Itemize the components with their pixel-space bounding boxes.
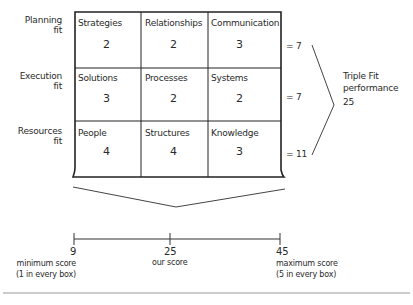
cell-value: 2 — [170, 92, 177, 105]
cell-value: 2 — [236, 92, 243, 105]
cell-value: 3 — [236, 145, 243, 158]
cell-value: 3 — [103, 92, 110, 105]
cell-value: 4 — [170, 145, 177, 158]
scale-value-min: 9 — [70, 246, 76, 257]
scale-caption-max: maximum score (5 in every box) — [276, 258, 338, 280]
cell-value: 2 — [103, 38, 110, 51]
scale-caption-min: minimum score (1 in every box) — [12, 258, 76, 280]
scale-value-ours: 25 — [164, 246, 176, 257]
scale-value-max: 45 — [276, 246, 288, 257]
triple-fit-summary: Triple Fit performance 25 — [343, 70, 398, 108]
row-label-line1: Planning — [2, 15, 62, 25]
cell-title: Knowledge — [211, 128, 259, 138]
row-label-line2: fit — [2, 81, 62, 91]
cell-title: Strategies — [78, 18, 122, 28]
row-label-resources: Resources fit — [2, 126, 62, 146]
caption-line1: minimum score — [12, 258, 76, 269]
right-bracket — [312, 45, 334, 155]
caption-line2: (5 in every box) — [276, 269, 338, 280]
row-label-line1: Execution — [2, 71, 62, 81]
caption-line1: maximum score — [276, 258, 338, 269]
cell-title: Systems — [211, 73, 248, 83]
row-total-planning: = 7 — [286, 41, 302, 51]
scale-caption-ours: our score — [152, 258, 188, 267]
cell-title: Solutions — [78, 73, 118, 83]
row-total-resources: = 11 — [286, 149, 307, 159]
row-total-execution: = 7 — [286, 92, 302, 102]
summary-value: 25 — [343, 96, 398, 108]
cell-value: 2 — [170, 38, 177, 51]
cell-title: Processes — [145, 73, 188, 83]
cell-title: Structures — [145, 128, 190, 138]
cell-title: Communication — [211, 18, 279, 28]
summary-line1: Triple Fit — [343, 70, 398, 82]
bottom-bracket — [73, 187, 285, 207]
row-label-line2: fit — [2, 136, 62, 146]
row-label-line2: fit — [2, 25, 62, 35]
cell-value: 3 — [236, 38, 243, 51]
cell-title: Relationships — [145, 18, 202, 28]
caption-line2: (1 in every box) — [12, 269, 76, 280]
row-label-line1: Resources — [2, 126, 62, 136]
row-label-planning: Planning fit — [2, 15, 62, 35]
cell-title: People — [78, 128, 107, 138]
row-label-execution: Execution fit — [2, 71, 62, 91]
cell-value: 4 — [103, 145, 110, 158]
summary-line2: performance — [343, 82, 398, 94]
